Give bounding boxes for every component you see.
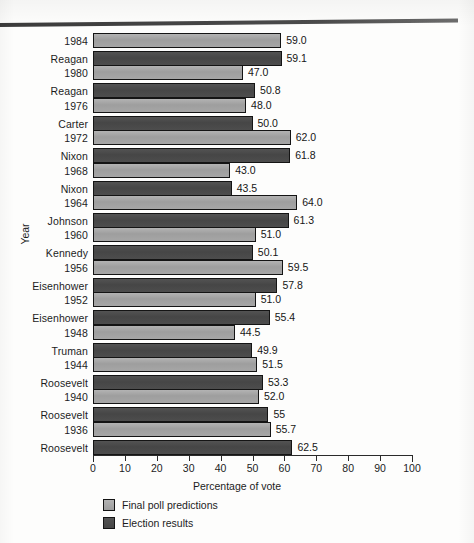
- x-tick-mark: [316, 455, 317, 461]
- bar-value-result: 61.3: [294, 213, 314, 228]
- bar-result: [93, 51, 282, 66]
- category-label-person: Roosevelt: [40, 408, 88, 422]
- bar-row-poll: 195659.5: [0, 260, 474, 276]
- bar-value-result: 55.4: [275, 310, 295, 325]
- category-label-person: Roosevelt: [40, 441, 88, 455]
- bar-row-result: Roosevelt62.5: [0, 440, 474, 456]
- y-axis-title: Year: [19, 204, 31, 264]
- bar-value-poll: 48.0: [251, 98, 271, 113]
- bar-value-poll: 44.5: [240, 325, 260, 340]
- category-label-person: Nixon: [61, 149, 88, 163]
- x-tick-mark: [125, 455, 126, 461]
- bar-poll: [93, 260, 283, 275]
- bar-result: [93, 116, 253, 131]
- bar-result: [93, 181, 232, 196]
- legend-label-poll: Final poll predictions: [122, 498, 218, 512]
- category-label-year: 1952: [64, 293, 88, 307]
- category-label-year: 1936: [64, 423, 88, 437]
- bar-result: [93, 375, 263, 390]
- bar-result: [93, 245, 253, 260]
- bar-value-result: 50.1: [258, 245, 278, 260]
- bar-value-result: 57.8: [282, 278, 302, 293]
- bar-row-poll: 197262.0: [0, 130, 474, 146]
- bar-poll: [93, 389, 259, 404]
- bar-result: [93, 407, 268, 422]
- bar-result: [93, 148, 290, 163]
- category-label-year: 1984: [64, 34, 88, 48]
- legend-label-result: Election results: [122, 516, 193, 530]
- category-label-year: 1972: [64, 131, 88, 145]
- category-label-person: Roosevelt: [40, 376, 88, 390]
- category-label-year: 1944: [64, 358, 88, 372]
- bar-poll: [93, 33, 281, 48]
- x-tick-mark: [189, 455, 190, 461]
- bar-poll: [93, 65, 243, 80]
- bar-row-poll: 196464.0: [0, 195, 474, 211]
- bar-poll: [93, 357, 257, 372]
- x-tick-mark: [93, 455, 94, 462]
- bar-result: [93, 83, 255, 98]
- bar-value-result: 55: [273, 407, 285, 422]
- bar-result: [93, 343, 252, 358]
- bar-value-result: 50.0: [258, 116, 278, 131]
- bar-poll: [93, 422, 271, 437]
- bar-value-poll: 51.0: [261, 227, 281, 242]
- bar-value-poll: 59.0: [286, 33, 306, 48]
- category-label-person: Carter: [58, 117, 88, 131]
- category-label-person: Reagan: [51, 84, 88, 98]
- category-label-year: 1960: [64, 228, 88, 242]
- bar-result: [93, 310, 270, 325]
- bar-value-poll: 51.0: [261, 292, 281, 307]
- bar-row-poll: 198047.0: [0, 65, 474, 81]
- bar-row-poll: 196843.0: [0, 163, 474, 179]
- bar-row-poll: 193655.7: [0, 422, 474, 438]
- bar-value-poll: 64.0: [302, 195, 322, 210]
- category-label-year: 1948: [64, 326, 88, 340]
- category-label-person: Eisenhower: [32, 311, 88, 325]
- bar-value-result: 49.9: [257, 343, 277, 358]
- category-label-person: Reagan: [51, 52, 88, 66]
- x-axis-title: Percentage of vote: [0, 480, 474, 492]
- legend-swatch-result-icon: [103, 517, 115, 529]
- bar-value-poll: 43.0: [235, 163, 255, 178]
- x-tick-mark: [380, 455, 381, 461]
- category-label-year: 1940: [64, 390, 88, 404]
- bar-poll: [93, 163, 230, 178]
- bar-poll: [93, 292, 256, 307]
- x-tick-mark: [221, 455, 222, 461]
- bar-value-result: 43.5: [237, 181, 257, 196]
- bar-row-poll: 194844.5: [0, 325, 474, 341]
- bar-poll: [93, 130, 291, 145]
- x-tick-mark: [157, 455, 158, 461]
- bar-value-poll: 52.0: [264, 389, 284, 404]
- bar-value-poll: 47.0: [248, 65, 268, 80]
- category-label-year: 1980: [64, 66, 88, 80]
- bar-row-poll: 197648.0: [0, 98, 474, 114]
- x-tick-mark: [348, 455, 349, 461]
- bar-value-poll: 51.5: [262, 357, 282, 372]
- category-label-year: 1976: [64, 99, 88, 113]
- category-label-year: 1964: [64, 196, 88, 210]
- bar-value-poll: 62.0: [296, 130, 316, 145]
- category-label-year: 1968: [64, 164, 88, 178]
- bar-row-poll: 196051.0: [0, 227, 474, 243]
- legend-swatch-poll-icon: [103, 499, 115, 511]
- bar-poll: [93, 98, 246, 113]
- bar-result: [93, 440, 292, 455]
- bar-value-result: 61.8: [295, 148, 315, 163]
- bar-row-poll: 198459.0: [0, 33, 474, 49]
- bar-result: [93, 213, 289, 228]
- bar-poll: [93, 227, 256, 242]
- x-tick-mark: [253, 455, 254, 461]
- bar-row-poll: 194052.0: [0, 389, 474, 405]
- bar-value-result: 59.1: [287, 51, 307, 66]
- bar-value-result: 50.8: [260, 83, 280, 98]
- bar-result: [93, 278, 277, 293]
- category-label-person: Nixon: [61, 182, 88, 196]
- category-label-person: Eisenhower: [32, 279, 88, 293]
- category-label-year: 1956: [64, 261, 88, 275]
- bar-value-poll: 55.7: [276, 422, 296, 437]
- bar-value-result: 53.3: [268, 375, 288, 390]
- bar-poll: [93, 325, 235, 340]
- category-label-person: Truman: [52, 344, 88, 358]
